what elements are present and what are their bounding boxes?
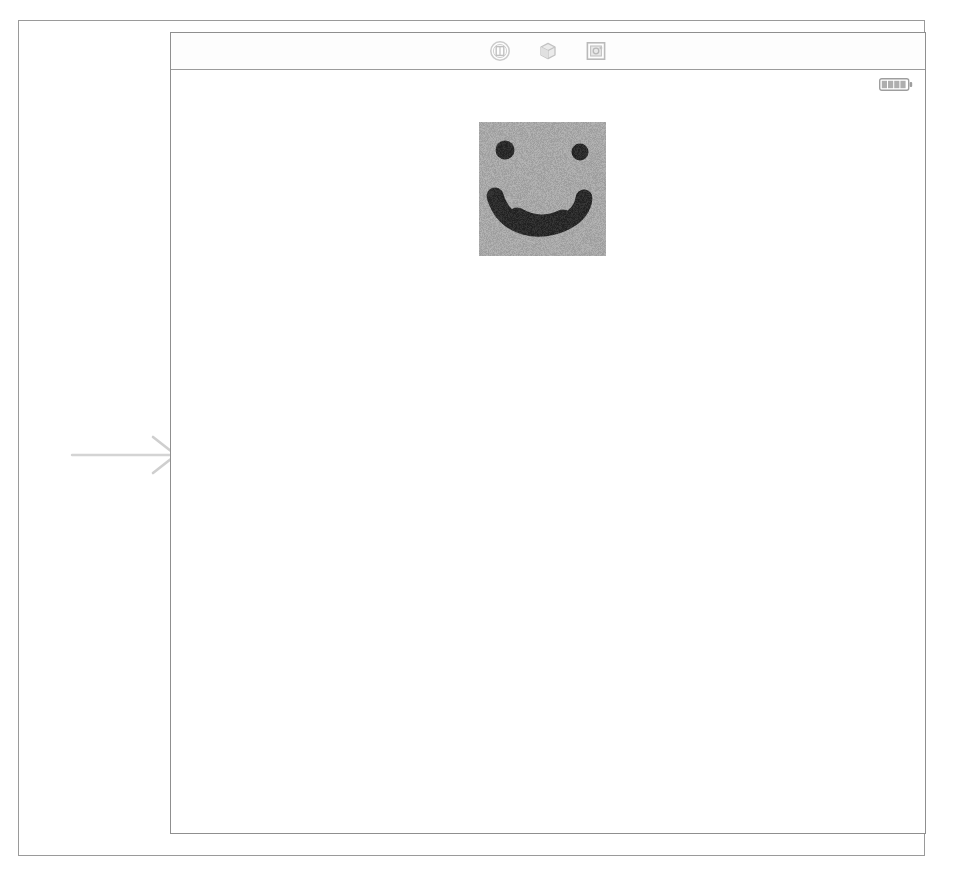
- cube-button[interactable]: [535, 38, 561, 64]
- smiley-face-image[interactable]: Hand-drawn smiley face on gray backgroun…: [479, 122, 606, 256]
- camera-button[interactable]: [487, 38, 513, 64]
- application-window: Hand-drawn smiley face on gray backgroun…: [170, 32, 926, 834]
- image-canvas-area[interactable]: Hand-drawn smiley face on gray backgroun…: [171, 96, 925, 833]
- crop-frame-icon: [585, 40, 607, 62]
- window-status-strip: [171, 70, 925, 96]
- camera-icon: [489, 40, 511, 62]
- battery-level-label: [913, 77, 914, 78]
- smiley-face-canvas: [479, 122, 606, 256]
- smiley-face-alt-text: Hand-drawn smiley face on gray backgroun…: [479, 256, 480, 257]
- battery-indicator[interactable]: [879, 77, 913, 90]
- window-toolbar: [171, 33, 925, 70]
- battery-icon: [879, 78, 913, 91]
- cube-icon: [537, 40, 559, 62]
- crop-frame-button[interactable]: [583, 38, 609, 64]
